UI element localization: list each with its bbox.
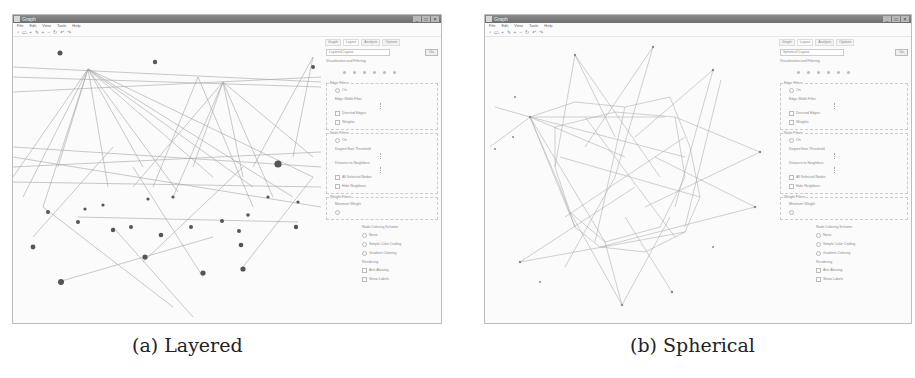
save-icon[interactable]: ▪ xyxy=(502,29,504,36)
section-label: Visualization and Filtering xyxy=(323,57,441,65)
weight-filters-group: Weight Filters Minimum Weight xyxy=(326,197,438,220)
caption-spherical: (b) Spherical xyxy=(630,334,755,356)
redo-icon[interactable]: ↷ xyxy=(539,29,543,36)
undo-icon[interactable]: ↶ xyxy=(60,29,64,36)
title-bar: Graph _ □ × xyxy=(485,15,911,23)
tab-graph[interactable]: Graph xyxy=(779,39,795,46)
coloring-simple-radio[interactable] xyxy=(816,242,821,247)
tab-layout[interactable]: Layout xyxy=(343,39,360,46)
coloring-gradient-radio[interactable] xyxy=(816,251,821,256)
view-mode-buttons xyxy=(323,65,441,80)
view-mode-button[interactable] xyxy=(817,71,820,74)
go-button[interactable]: Go xyxy=(895,49,908,56)
close-button[interactable]: × xyxy=(901,16,909,22)
view-mode-button[interactable] xyxy=(383,71,386,74)
weight-filter-radio[interactable] xyxy=(789,210,794,215)
minimize-button[interactable]: _ xyxy=(413,16,421,22)
view-mode-button[interactable] xyxy=(827,71,830,74)
settings-panel: Graph Layout Analysis Options Layered La… xyxy=(323,37,441,323)
node-filter-on-radio[interactable] xyxy=(789,138,794,143)
tab-analysis[interactable]: Analysis xyxy=(815,39,834,46)
view-mode-button[interactable] xyxy=(373,71,376,74)
menu-help[interactable]: Help xyxy=(72,23,80,29)
zoom-in-icon[interactable]: + xyxy=(514,29,517,36)
screenshot-layered: Graph _ □ × File Edit View Tools Help ▫ … xyxy=(12,14,442,324)
layout-select[interactable]: Spherical Layout xyxy=(780,49,844,56)
node-filters-group: Node Filters On Degree/Size Threshold Di… xyxy=(780,133,908,194)
tab-graph[interactable]: Graph xyxy=(325,39,341,46)
zoom-out-icon[interactable]: − xyxy=(519,29,522,36)
anti-aliasing-checkbox[interactable] xyxy=(362,268,367,273)
redo-icon[interactable]: ↷ xyxy=(67,29,71,36)
view-mode-buttons xyxy=(777,65,911,80)
section-label: Visualization and Filtering xyxy=(777,57,911,65)
app-icon xyxy=(486,16,492,22)
panel-tabs: Graph Layout Analysis Options xyxy=(777,37,911,48)
zoom-in-icon[interactable]: + xyxy=(42,29,45,36)
pointer-icon[interactable]: ✎ xyxy=(35,29,39,36)
open-icon[interactable]: ▭ xyxy=(22,29,27,36)
panel-tabs: Graph Layout Analysis Options xyxy=(323,37,441,48)
anti-aliasing-checkbox[interactable] xyxy=(816,268,821,273)
tab-analysis[interactable]: Analysis xyxy=(361,39,380,46)
graph-canvas-spherical[interactable] xyxy=(485,37,775,323)
weights-checkbox[interactable] xyxy=(789,120,794,125)
hide-neighbors-checkbox[interactable] xyxy=(789,184,794,189)
edge-filter-on-radio[interactable] xyxy=(789,88,794,93)
caption-layered: (a) Layered xyxy=(132,334,243,356)
view-mode-button[interactable] xyxy=(343,71,346,74)
tab-layout[interactable]: Layout xyxy=(797,39,814,46)
menu-help[interactable]: Help xyxy=(544,23,552,29)
zoom-out-icon[interactable]: − xyxy=(47,29,50,36)
undo-icon[interactable]: ↶ xyxy=(532,29,536,36)
hide-neighbors-checkbox[interactable] xyxy=(335,184,340,189)
directed-edges-checkbox[interactable] xyxy=(335,111,340,116)
maximize-button[interactable]: □ xyxy=(422,16,430,22)
edge-filters-group: Edge Filters On Edge Width Filter Direct… xyxy=(326,83,438,130)
minimize-button[interactable]: _ xyxy=(883,16,891,22)
save-icon[interactable]: ▪ xyxy=(30,29,32,36)
edge-filter-on-radio[interactable] xyxy=(335,88,340,93)
rotate-icon[interactable]: ↻ xyxy=(525,29,529,36)
window-title: Graph xyxy=(22,15,36,23)
title-bar: Graph _ □ × xyxy=(13,15,441,23)
coloring-options: Node Coloring Scheme None Simple Color C… xyxy=(323,223,441,284)
tab-options[interactable]: Options xyxy=(382,39,400,46)
settings-panel: Graph Layout Analysis Options Spherical … xyxy=(777,37,911,323)
view-mode-button[interactable] xyxy=(807,71,810,74)
edge-filters-group: Edge Filters On Edge Width Filter Direct… xyxy=(780,83,908,130)
view-mode-button[interactable] xyxy=(837,71,840,74)
window-title: Graph xyxy=(494,15,508,23)
all-selected-checkbox[interactable] xyxy=(789,175,794,180)
coloring-none-radio[interactable] xyxy=(362,233,367,238)
weight-filter-radio[interactable] xyxy=(335,210,340,215)
coloring-simple-radio[interactable] xyxy=(362,242,367,247)
view-mode-button[interactable] xyxy=(847,71,850,74)
node-filter-on-radio[interactable] xyxy=(335,138,340,143)
coloring-gradient-radio[interactable] xyxy=(362,251,367,256)
view-mode-button[interactable] xyxy=(353,71,356,74)
show-labels-checkbox[interactable] xyxy=(362,277,367,282)
tab-options[interactable]: Options xyxy=(836,39,854,46)
open-icon[interactable]: ▭ xyxy=(494,29,499,36)
weights-checkbox[interactable] xyxy=(335,120,340,125)
rotate-icon[interactable]: ↻ xyxy=(53,29,57,36)
coloring-options: Node Coloring Scheme None Simple Color C… xyxy=(777,223,911,284)
directed-edges-checkbox[interactable] xyxy=(789,111,794,116)
graph-canvas-layered[interactable] xyxy=(13,37,321,323)
new-icon[interactable]: ▫ xyxy=(17,29,19,36)
all-selected-checkbox[interactable] xyxy=(335,175,340,180)
show-labels-checkbox[interactable] xyxy=(816,277,821,282)
layout-select[interactable]: Layered Layout xyxy=(326,49,390,56)
go-button[interactable]: Go xyxy=(425,49,438,56)
view-mode-button[interactable] xyxy=(363,71,366,74)
view-mode-button[interactable] xyxy=(797,71,800,74)
maximize-button[interactable]: □ xyxy=(892,16,900,22)
toolbar: ▫ ▭ ▪ ✎ + − ↻ ↶ ↷ xyxy=(13,29,441,37)
pointer-icon[interactable]: ✎ xyxy=(507,29,511,36)
coloring-none-radio[interactable] xyxy=(816,233,821,238)
new-icon[interactable]: ▫ xyxy=(489,29,491,36)
close-button[interactable]: × xyxy=(431,16,439,22)
view-mode-button[interactable] xyxy=(393,71,396,74)
weight-filters-group: Weight Filters Minimum Weight xyxy=(780,197,908,220)
